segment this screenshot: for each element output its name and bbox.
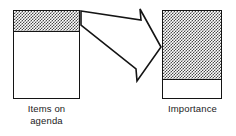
figure-canvas: Items on agenda Importance xyxy=(0,0,236,136)
bar-items-on-agenda xyxy=(13,10,80,99)
bar-label-items-on-agenda: Items on agenda xyxy=(4,103,89,126)
bar-segment-shaded xyxy=(163,11,221,80)
bar-segment-empty xyxy=(14,32,79,98)
bar-segment-shaded xyxy=(14,11,79,32)
bar-importance xyxy=(162,10,222,99)
bar-segment-empty xyxy=(163,80,221,98)
bar-label-importance: Importance xyxy=(150,103,235,115)
